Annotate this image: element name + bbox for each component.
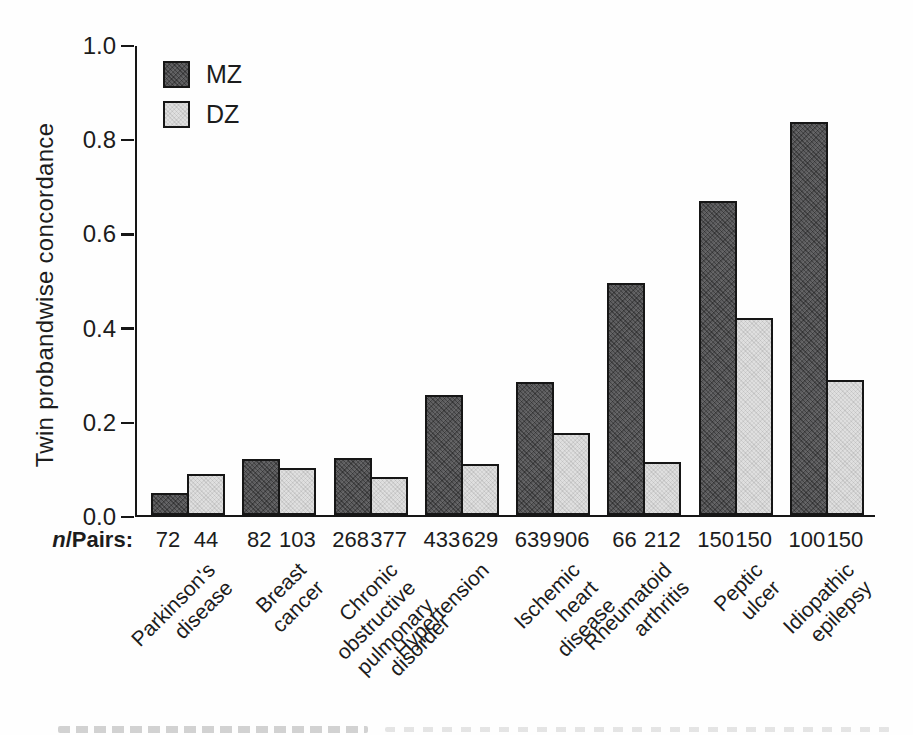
dz-n-pairs-value: 103	[278, 526, 316, 554]
bar-group	[516, 46, 590, 515]
mz-n-pairs-value: 72	[149, 526, 187, 554]
y-tick-mark	[121, 233, 134, 236]
n-pairs-cell: 66212	[605, 526, 681, 554]
n-pairs-cell: 639906	[514, 526, 590, 554]
n-pairs-values-row: 7244821032683774336296399066621215015010…	[135, 526, 875, 554]
mz-n-pairs-value: 82	[240, 526, 278, 554]
category-cell: Breast cancer	[240, 556, 316, 731]
category-label: Idiopathic epilepsy	[778, 558, 877, 657]
bar-group	[607, 46, 681, 515]
category-cell: Hypertension	[423, 556, 499, 731]
bar-group	[334, 46, 408, 515]
mz-bar	[699, 201, 737, 515]
category-cell: Peptic ulcer	[697, 556, 773, 731]
n-pairs-cell: 433629	[423, 526, 499, 554]
x-axis-category-labels: Parkinson's diseaseBreast cancerChronic …	[135, 556, 875, 731]
cropped-caption-remnant-right	[385, 727, 890, 732]
n-italic: n	[52, 527, 65, 552]
y-axis-title: Twin probandwise concordance	[31, 123, 59, 468]
y-tick-mark	[121, 327, 134, 330]
y-tick-label: 0.4	[56, 315, 116, 343]
mz-bar	[607, 283, 645, 515]
twin-concordance-bar-chart: Twin probandwise concordance 1.00.80.60.…	[0, 0, 913, 735]
bar-group	[425, 46, 499, 515]
mz-swatch-icon	[163, 61, 190, 88]
bar-group	[242, 46, 316, 515]
mz-n-pairs-value: 66	[605, 526, 643, 554]
y-tick-label: 1.0	[56, 32, 116, 60]
bar-group	[790, 46, 864, 515]
mz-bar	[790, 122, 828, 515]
n-pairs-cell: 150150	[697, 526, 773, 554]
n-pairs-cell: 268377	[332, 526, 408, 554]
dz-n-pairs-value: 150	[735, 526, 773, 554]
mz-n-pairs-value: 433	[423, 526, 461, 554]
dz-bar	[643, 462, 681, 515]
legend: MZ DZ	[163, 60, 242, 140]
dz-n-pairs-value: 212	[643, 526, 681, 554]
category-cell: Idiopathic epilepsy	[788, 556, 864, 731]
n-pairs-row-label: n/Pairs:	[28, 526, 133, 554]
legend-item-dz: DZ	[163, 100, 242, 129]
legend-label-dz: DZ	[206, 100, 239, 129]
dz-bar	[552, 433, 590, 515]
y-tick-mark	[121, 139, 134, 142]
n-pairs-cell: 82103	[240, 526, 316, 554]
mz-bar	[334, 458, 372, 515]
bar-groups	[137, 46, 875, 515]
dz-bar	[278, 468, 316, 515]
category-label: Peptic ulcer	[709, 558, 785, 634]
y-tick-label: 0.6	[56, 220, 116, 248]
dz-swatch-icon	[163, 101, 190, 128]
y-tick-mark	[121, 45, 134, 48]
plot-area	[135, 46, 875, 517]
mz-n-pairs-value: 639	[514, 526, 552, 554]
category-label: Parkinson's disease	[127, 558, 238, 669]
dz-bar	[826, 380, 864, 515]
category-cell: Rheumatoid arthritis	[605, 556, 681, 731]
dz-bar	[187, 474, 225, 515]
y-tick-mark	[121, 422, 134, 425]
mz-bar	[425, 395, 463, 515]
dz-n-pairs-value: 377	[370, 526, 408, 554]
bar-group	[699, 46, 773, 515]
category-cell: Ischemic heart disease	[514, 556, 590, 731]
dz-bar	[735, 318, 773, 515]
y-tick-label: 0.8	[56, 126, 116, 154]
legend-item-mz: MZ	[163, 60, 242, 89]
dz-n-pairs-value: 906	[552, 526, 590, 554]
mz-bar	[516, 382, 554, 515]
mz-bar	[151, 493, 189, 516]
pairs-label-rest: /Pairs:	[66, 527, 133, 552]
dz-n-pairs-value: 44	[187, 526, 225, 554]
cropped-caption-remnant-left	[58, 726, 368, 733]
n-pairs-cell: 7244	[149, 526, 225, 554]
y-tick-mark	[121, 516, 134, 519]
legend-label-mz: MZ	[206, 60, 242, 89]
mz-n-pairs-value: 150	[697, 526, 735, 554]
mz-n-pairs-value: 100	[788, 526, 826, 554]
category-cell: Parkinson's disease	[149, 556, 225, 731]
dz-n-pairs-value: 629	[461, 526, 499, 554]
mz-bar	[242, 459, 280, 515]
dz-bar	[461, 464, 499, 515]
dz-bar	[370, 477, 408, 515]
mz-n-pairs-value: 268	[332, 526, 370, 554]
y-tick-label: 0.2	[56, 409, 116, 437]
dz-n-pairs-value: 150	[826, 526, 864, 554]
n-pairs-cell: 100150	[788, 526, 864, 554]
